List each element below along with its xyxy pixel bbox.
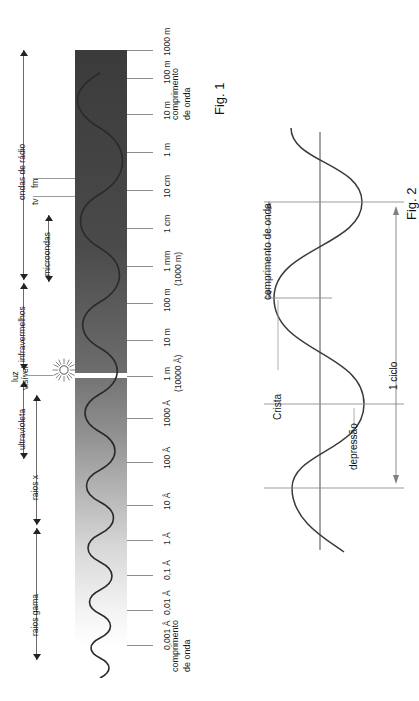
range-label-ultravioleta: ultravioleta (17, 409, 27, 450)
figure-1: 0,001 Å 0,01 Å 0,1 Å 1 Å 10 Å 100 A… (0, 0, 250, 701)
figure-2-wave-drawing (236, 120, 414, 560)
tick-rule (127, 575, 153, 576)
scale-label: 1 m (162, 143, 172, 157)
scale-label: 100 m (162, 288, 172, 312)
leader-line-luz-visivel (23, 375, 53, 376)
tick-rule (127, 152, 153, 153)
axis-caption-bottom-line1: comprimento (170, 620, 180, 672)
tick-rule (127, 376, 153, 377)
fig2-trough-label: depressão (348, 423, 359, 470)
tick-rule (127, 228, 153, 229)
range-bar-raios-x (36, 395, 37, 525)
figure-2-label: Fig. 2 (404, 187, 419, 220)
tick-rule (127, 645, 153, 646)
tick-rule (127, 462, 153, 463)
scale-label: 1 mm (162, 251, 172, 272)
scale-label: 10 m (162, 328, 172, 347)
figure-1-label: Fig. 1 (212, 82, 227, 115)
range-label-microondas: microondas (42, 232, 52, 276)
range-label-tv: tv (30, 198, 40, 205)
scale-label: 1 m (162, 367, 172, 381)
tick-rule (127, 114, 153, 115)
fig2-cycle-label: 1 ciclo (388, 362, 399, 390)
tick-rule (127, 303, 153, 304)
scale-label: 1000 Å (162, 400, 172, 427)
axis-caption-bottom-line2: de onda (182, 639, 192, 672)
scale-label: 0,1 Å (162, 560, 172, 580)
scale-label: 10 Å (162, 493, 172, 511)
fig2-crest-label: Crista (272, 394, 283, 420)
tick-rule (127, 610, 153, 611)
axis-caption-top-line1: comprimento (170, 68, 180, 120)
range-label-infravermelhos: infravermelhos (17, 306, 27, 362)
sun-icon (52, 358, 76, 382)
scale-sublabel: (1000 m) (173, 252, 183, 286)
wavelength-sine-curve (60, 28, 140, 678)
range-label-raios-gama: raios gama (30, 594, 40, 636)
fig2-wavelength-label: comprimento de onda (262, 203, 273, 300)
leader-line-tv (33, 196, 75, 197)
range-label-raios-x: raios x (30, 475, 40, 500)
range-label-ondas-de-radio: ondas de rádio (17, 144, 27, 200)
tick-rule (127, 266, 153, 267)
scale-label: 0,01 Å (162, 590, 172, 615)
scale-label: 1 cm (162, 215, 172, 233)
tick-rule (127, 50, 153, 51)
tick-rule (127, 418, 153, 419)
axis-caption-top-line2: de onda (182, 87, 192, 120)
tick-rule (127, 540, 153, 541)
figure-2: comprimento de onda Crista depressão 1 c… (236, 120, 414, 580)
tick-rule (127, 505, 153, 506)
scale-label: 1000 m (162, 28, 172, 56)
tick-rule (127, 190, 153, 191)
scale-sublabel: (10000 Å) (173, 355, 183, 392)
range-label-fm: fm (30, 179, 40, 188)
tick-rule (127, 78, 153, 79)
scale-label: 10 cm (162, 175, 172, 198)
leader-line-fm (33, 178, 75, 179)
tick-rule (127, 340, 153, 341)
scale-label: 1 Å (162, 532, 172, 545)
scale-label: 100 Å (162, 447, 172, 469)
range-label-luz: luz (10, 371, 20, 382)
